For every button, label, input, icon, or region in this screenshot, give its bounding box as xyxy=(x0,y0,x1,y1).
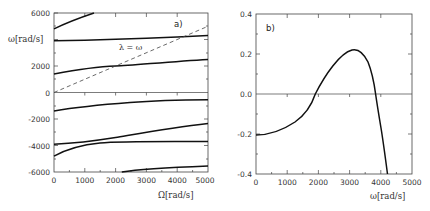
panel-a-ytick-2000: 2000 xyxy=(31,62,50,71)
panel-b-xtick-1000: 1000 xyxy=(278,178,297,187)
panel-b-label: b) xyxy=(266,23,275,33)
panel-a-lambda-equals-omega-line xyxy=(54,26,208,92)
panel-a-label: a) xyxy=(174,19,183,29)
panel-a-xtick-0: 0 xyxy=(52,176,57,185)
panel-b-xtick-5000: 5000 xyxy=(402,178,421,187)
panel-a-xtick-3000: 3000 xyxy=(137,176,156,185)
panel-a-y-ticks xyxy=(54,13,208,159)
panel-a-ytick-neg2000: -2000 xyxy=(28,115,50,124)
panel-b-ytick-0.2: 0.2 xyxy=(240,50,252,59)
panel-a: 6000 2000 0 -2000 -4000 -6000 ω[rad/s] 0… xyxy=(8,9,215,200)
panel-b-xtick-3000: 3000 xyxy=(340,178,359,187)
panel-b: 0.4 0.2 0.0 -0.2 -0.4 0 1000 2000 3000 4… xyxy=(237,10,421,201)
panel-b-xtick-2000: 2000 xyxy=(309,178,328,187)
panel-a-xtick-1000: 1000 xyxy=(75,176,94,185)
figure: 6000 2000 0 -2000 -4000 -6000 ω[rad/s] 0… xyxy=(0,0,430,211)
panel-a-xtick-2000: 2000 xyxy=(106,176,125,185)
panel-a-branch-6 xyxy=(54,141,208,156)
panel-a-ytick-neg4000: -4000 xyxy=(28,142,50,151)
panel-a-branch-7 xyxy=(122,166,208,172)
panel-a-xtick-5000: 5000 xyxy=(195,176,214,185)
panel-b-ytick-neg0.2: -0.2 xyxy=(237,130,252,139)
panel-b-ytick-0.4: 0.4 xyxy=(240,10,252,19)
panel-a-ytick-0: 0 xyxy=(45,89,50,98)
panel-b-xtick-4000: 4000 xyxy=(371,178,390,187)
panel-a-ytick-neg6000: -6000 xyxy=(28,168,50,177)
panel-a-xlabel: Ω[rad/s] xyxy=(158,190,193,200)
panel-b-xtick-0: 0 xyxy=(254,178,259,187)
panel-a-ytick-6000: 6000 xyxy=(31,9,50,18)
panel-b-ytick-0.0: 0.0 xyxy=(240,90,252,99)
panel-a-branch-1 xyxy=(54,13,94,29)
panel-a-annotation: λ = ω xyxy=(119,43,143,52)
panel-b-curve xyxy=(256,50,388,174)
panel-b-xlabel: ω[rad/s] xyxy=(370,191,405,201)
panel-a-branch-4 xyxy=(54,100,208,111)
panel-a-ylabel: ω[rad/s] xyxy=(8,34,43,44)
panel-b-ytick-neg0.4: -0.4 xyxy=(237,170,252,179)
panel-a-xtick-4000: 4000 xyxy=(168,176,187,185)
panel-a-branch-3 xyxy=(54,59,208,74)
